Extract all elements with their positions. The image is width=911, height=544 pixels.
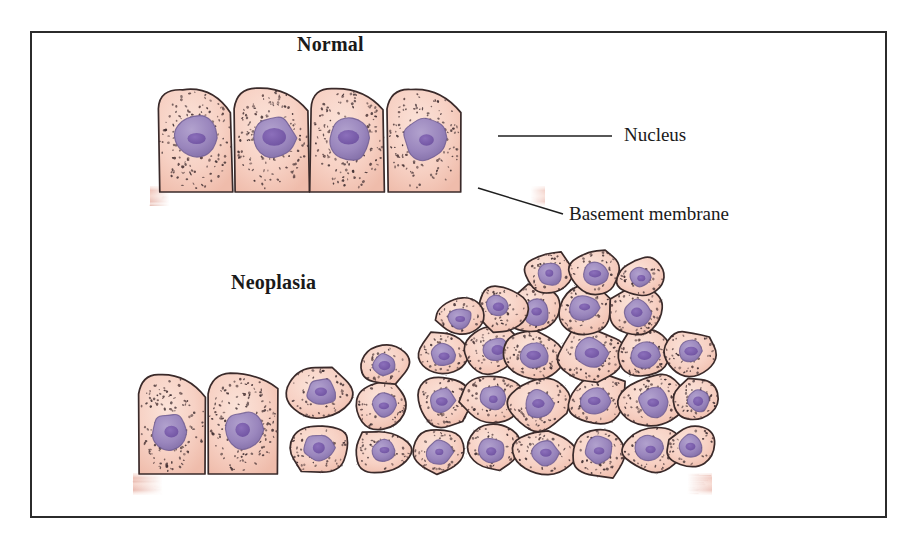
panel-title-normal: Normal	[297, 33, 364, 56]
label-nucleus: Nucleus	[624, 124, 686, 146]
figure-border-frame	[30, 31, 887, 518]
panel-title-neoplasia: Neoplasia	[231, 271, 316, 294]
figure-root: Normal Neoplasia Nucleus Basement membra…	[0, 0, 911, 544]
label-basement-membrane: Basement membrane	[569, 203, 729, 225]
